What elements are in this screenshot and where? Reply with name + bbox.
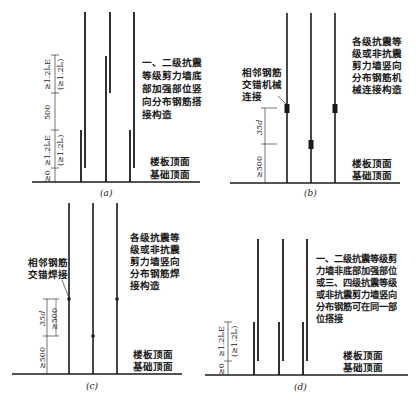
floor-label-slab-top: 楼板顶面 bbox=[343, 350, 383, 361]
dim-35d: 35d bbox=[255, 120, 264, 135]
weld-point-icon bbox=[115, 297, 119, 301]
dim-lap-length-upper: ≥1.2lₐE bbox=[43, 59, 52, 90]
floor-label-slab-top: 楼板顶面 bbox=[133, 349, 173, 360]
floor-label-foundation-top: 基础顶面 bbox=[351, 170, 392, 181]
floor-label-foundation-top: 基础顶面 bbox=[149, 169, 190, 180]
dim-min-500-upper: ≥500 bbox=[50, 308, 59, 330]
panel-b-caption: (b) bbox=[304, 188, 317, 198]
floor-label-foundation-top: 基础顶面 bbox=[132, 361, 173, 372]
panel-c-callout: 相邻钢筋 交错焊接 bbox=[28, 257, 71, 280]
weld-point-icon bbox=[91, 334, 95, 338]
dim-lap-length-lower-alt: (≥1.2lₐ) bbox=[56, 135, 65, 166]
dim-lap-length: ≥1.2lₐE bbox=[217, 326, 226, 357]
dim-min-500-lower: ≥500 bbox=[38, 347, 47, 369]
dim-zero: ≥0 bbox=[217, 363, 226, 375]
dim-lap-length-upper-alt: (≥1.2lₐ) bbox=[56, 59, 65, 90]
mechanical-coupler-icon bbox=[285, 104, 290, 113]
dim-lap-length-lower: ≥1.2lₐE bbox=[43, 135, 52, 166]
dim-zero: ≥0 bbox=[43, 170, 52, 182]
dim-stagger-500: 500 bbox=[43, 105, 52, 120]
dim-min-500: ≥500 bbox=[255, 156, 264, 178]
rebar-splice-diagram: ≥1.2lₐE (≥1.2lₐ) 500 ≥1.2lₐE (≥1.2lₐ) ≥0… bbox=[0, 0, 416, 402]
panel-b-description: 各级抗震等 级或非抗震 剪力墙竖向 分布钢筋机 械连接构造 bbox=[351, 36, 405, 95]
panel-a-caption: (a) bbox=[100, 188, 113, 198]
floor-label-slab-top: 楼板顶面 bbox=[150, 156, 190, 167]
panel-d-caption: (d) bbox=[294, 382, 307, 392]
floor-label-slab-top: 楼板顶面 bbox=[352, 158, 392, 169]
floor-label-foundation-top: 基础顶面 bbox=[342, 362, 383, 373]
dim-35d: 35d bbox=[38, 311, 47, 326]
dim-lap-length-alt: (≥1.2lₐ) bbox=[230, 326, 239, 357]
panel-c-caption: (c) bbox=[86, 381, 99, 391]
mechanical-coupler-icon bbox=[333, 104, 338, 113]
mechanical-coupler-icon bbox=[309, 140, 314, 149]
